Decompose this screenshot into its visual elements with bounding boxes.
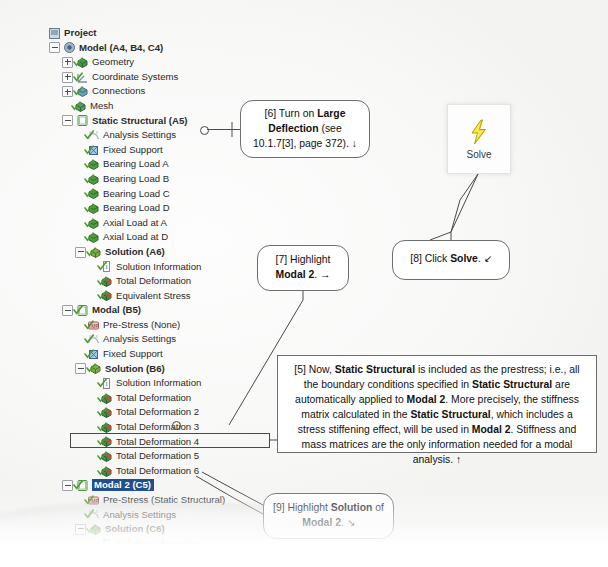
tree-node[interactable]: iSolution Information: [36, 537, 286, 552]
tree-node[interactable]: Modal (B5): [36, 303, 286, 318]
tree-node[interactable]: Solution (C6): [36, 522, 286, 537]
result-icon: [100, 392, 113, 405]
callout-text-segment: [7] Highlight: [276, 254, 331, 265]
tree-node[interactable]: Total Deformation: [36, 391, 286, 406]
tree-node[interactable]: TMPPre-Stress (Static Structural): [36, 493, 286, 508]
tree-expander-minus-icon[interactable]: [75, 363, 86, 374]
tree-expander-placeholder: [75, 219, 84, 228]
tree-node-label: Modal 2 (C5): [92, 479, 154, 491]
load-icon: [87, 217, 100, 230]
tree-expander-placeholder: [75, 146, 84, 155]
environment-icon: [76, 479, 89, 492]
callout-8: [8] Click Solve. ↙: [392, 240, 510, 280]
solve-button[interactable]: Solve: [447, 104, 511, 174]
anchor-analysis-settings: [200, 126, 209, 135]
callout-text-segment: Modal 2: [472, 424, 511, 435]
tree-node[interactable]: Model (A4, B4, C4): [36, 41, 286, 56]
tree-node-label: Bearing Load B: [103, 174, 169, 184]
tree-expander-minus-icon[interactable]: [75, 524, 86, 535]
tree-expander-placeholder: [88, 277, 97, 286]
tree-node[interactable]: iSolution Information: [36, 376, 286, 391]
tree-node[interactable]: Project: [36, 26, 286, 41]
support-icon: [87, 348, 100, 361]
tree-expander-plus-icon[interactable]: [62, 72, 73, 83]
tree-node-label: Bearing Load A: [103, 159, 169, 169]
tree-node-label: Pre-Stress (Static Structural): [103, 495, 225, 505]
tree-expander-plus-icon[interactable]: [62, 86, 73, 97]
tree-node[interactable]: Total Deformation 5: [36, 449, 286, 464]
callout-text-segment: . ↘: [341, 517, 355, 528]
tree-node-label: Solution (A6): [105, 247, 165, 257]
tree-expander-placeholder: [75, 350, 84, 359]
tree-node[interactable]: Axial Load at A: [36, 216, 286, 231]
tree-node[interactable]: Bearing Load A: [36, 157, 286, 172]
prestress-icon: TMP: [87, 494, 100, 507]
tree-expander-placeholder: [75, 510, 84, 519]
tree-node[interactable]: Bearing Load C: [36, 187, 286, 202]
tree-expander-placeholder: [75, 160, 84, 169]
tree-expander-placeholder: [62, 102, 71, 111]
callout-text-segment: Solution: [331, 502, 373, 513]
tree-expander-minus-icon[interactable]: [49, 42, 60, 53]
tree-node[interactable]: Modal 2 (C5): [36, 478, 286, 493]
load-icon: [87, 202, 100, 215]
tree-node[interactable]: TMPPre-Stress (None): [36, 318, 286, 333]
tree-node[interactable]: Bearing Load D: [36, 201, 286, 216]
tree-expander-placeholder: [88, 423, 97, 432]
callout-text-segment: Static Structural: [472, 379, 552, 390]
support-icon: [87, 144, 100, 157]
callout-7: [7] Highlight Modal 2. →: [257, 245, 349, 291]
tree-expander-plus-icon[interactable]: [62, 57, 73, 68]
tree-node-label: Analysis Settings: [103, 130, 176, 140]
tree-node-label: Total Deformation 6: [116, 466, 199, 476]
tree-expander-minus-icon[interactable]: [62, 305, 73, 316]
anchor-modal2: [172, 421, 181, 430]
model-icon: [63, 41, 76, 54]
tree-expander-placeholder: [88, 540, 97, 549]
tree-node[interactable]: Equivalent Stress: [36, 289, 286, 304]
tree-node-label: Project: [64, 28, 97, 38]
tree-node[interactable]: Connections: [36, 84, 286, 99]
tree-node[interactable]: Analysis Settings: [36, 332, 286, 347]
tree-node[interactable]: Coordinate Systems: [36, 70, 286, 85]
coordinate-systems-icon: [76, 71, 89, 84]
tree-expander-minus-icon[interactable]: [62, 115, 73, 126]
tree-node[interactable]: Axial Load at D: [36, 230, 286, 245]
tree-node[interactable]: Total Deformation: [36, 274, 286, 289]
tree-expander-placeholder: [75, 131, 84, 140]
tree-node[interactable]: Solution (A6): [36, 245, 286, 260]
tree-node[interactable]: Solution (B6): [36, 362, 286, 377]
tree-node[interactable]: Bearing Load B: [36, 172, 286, 187]
tree-expander-placeholder: [88, 379, 97, 388]
tree-node-label: Solution (B6): [105, 364, 165, 374]
callout-text-segment: Modal 2: [407, 394, 446, 405]
callout-text-segment: Modal 2: [302, 517, 341, 528]
tree-expander-placeholder: [75, 496, 84, 505]
tree-node-label: Solution (C6): [105, 524, 165, 534]
tree-node-label: Analysis Settings: [103, 510, 176, 520]
tree-expander-placeholder: [88, 291, 97, 300]
tree-expander-minus-icon[interactable]: [62, 480, 73, 491]
tree-node-label: Total Deformation 2: [116, 407, 199, 417]
prestress-highlight-box: [70, 433, 270, 448]
tree-node-label: Axial Load at D: [103, 232, 168, 242]
tree-node[interactable]: Total Deformation 2: [36, 405, 286, 420]
tree-node-label: Static Structural (A5): [92, 116, 187, 126]
mesh-icon: [74, 100, 87, 113]
tree-node[interactable]: Analysis Settings: [36, 508, 286, 523]
callout-9: [9] Highlight Solution of Modal 2. ↘: [263, 493, 394, 539]
tree-expander-placeholder: [75, 233, 84, 242]
tree-node[interactable]: Fixed Support: [36, 347, 286, 362]
callout-6: [6] Turn on Large Deflection (see 10.1.7…: [240, 100, 370, 158]
tree-expander-minus-icon[interactable]: [75, 247, 86, 258]
result-icon: [100, 450, 113, 463]
result-icon: [100, 289, 113, 302]
tree-node[interactable]: iSolution Information: [36, 260, 286, 275]
geometry-icon: [76, 56, 89, 69]
prestress-icon: TMP: [87, 319, 100, 332]
tree-node[interactable]: Geometry: [36, 55, 286, 70]
callout-text-segment: . ↙: [478, 253, 492, 264]
tree-node-label: Pre-Stress (None): [103, 320, 180, 330]
project-icon: [48, 27, 61, 40]
tree-node[interactable]: Total Deformation 6: [36, 464, 286, 479]
